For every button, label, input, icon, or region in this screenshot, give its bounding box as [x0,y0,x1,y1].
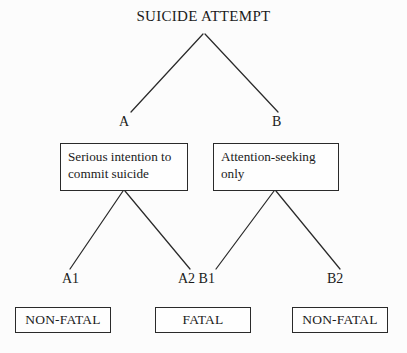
edge-attention-to-b1 [216,191,274,269]
edge-root-to-b [205,34,278,112]
branch-label-a: A [119,114,129,130]
branch-label-a2-b1: A2 B1 [178,271,215,287]
branch-label-b2: B2 [327,271,343,287]
box-attention-seeking: Attention-seeking only [213,143,339,191]
box-outcome-non-fatal-left: NON-FATAL [15,307,111,333]
edge-serious-to-a2 [125,191,190,269]
box-outcome-fatal: FATAL [155,307,251,333]
branch-label-a1: A1 [62,271,79,287]
suicide-attempt-decision-tree: SUICIDE ATTEMPT A B Serious intention to… [0,0,407,353]
edge-attention-to-b2 [276,191,340,269]
box-outcome-non-fatal-right: NON-FATAL [292,307,388,333]
box-serious-intention: Serious intention to commit suicide [60,143,188,191]
edge-root-to-a [131,34,203,112]
edge-serious-to-a1 [70,191,123,269]
branch-label-b: B [272,114,281,130]
page-title: SUICIDE ATTEMPT [0,8,407,25]
